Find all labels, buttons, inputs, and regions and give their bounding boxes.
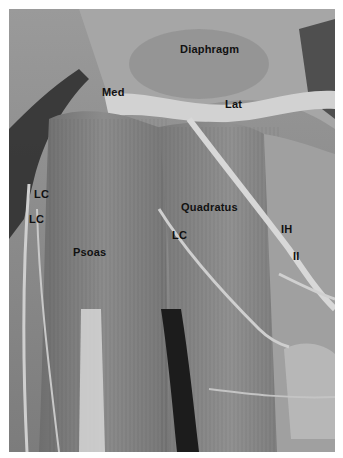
label-med: Med — [102, 87, 125, 98]
label-psoas: Psoas — [73, 247, 106, 258]
label-lc-middle: LC — [172, 230, 187, 241]
label-ii: II — [293, 251, 300, 262]
label-quadratus: Quadratus — [181, 202, 238, 213]
dissection-photo: Diaphragm Med Lat LC LC Quadratus LC IH … — [9, 9, 335, 452]
label-ih: IH — [281, 224, 292, 235]
label-lat: Lat — [225, 99, 242, 110]
label-lc-left-lower: LC — [29, 214, 44, 225]
label-lc-left-upper: LC — [34, 189, 49, 200]
label-diaphragm: Diaphragm — [180, 44, 239, 55]
